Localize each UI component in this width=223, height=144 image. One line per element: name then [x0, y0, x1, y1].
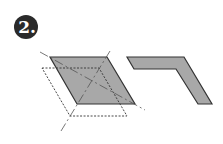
step-badge: 2. [14, 15, 38, 39]
diagram-canvas: 2. [0, 0, 223, 144]
folded-parallelogram [50, 57, 135, 104]
step-number: 2. [18, 17, 36, 37]
result-shape [127, 57, 212, 104]
